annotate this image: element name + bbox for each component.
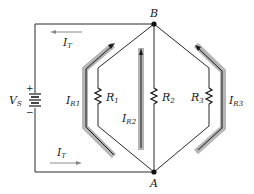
source-label: VS (9, 95, 22, 108)
ir3-label: IR3 (229, 95, 243, 108)
wire-r3-branch (154, 24, 209, 88)
parallel-circuit-diagram: B A + − VS IT IT R1 R2 R3 IR1 IR2 IR3 (0, 0, 254, 194)
r3-label-sub: 3 (199, 97, 203, 105)
source-label-main: V (9, 94, 17, 107)
node-a-dot (151, 169, 156, 174)
ir2-label: IR2 (122, 113, 136, 126)
r1-label: R1 (106, 92, 119, 105)
node-a-label: A (150, 178, 158, 189)
wire-r3-branch-low (154, 104, 209, 172)
ir1-label: IR1 (66, 95, 80, 108)
it-bottom-arrowhead-icon (76, 161, 82, 165)
node-b-dot (151, 21, 156, 26)
source-plus-sign: + (26, 84, 34, 93)
r3-resistor-icon (206, 88, 212, 104)
r1-label-sub: 1 (114, 97, 118, 105)
r1-resistor-icon (95, 88, 101, 104)
it-bottom-label-sub: T (61, 152, 66, 160)
source-label-sub: S (17, 100, 22, 108)
node-b-label: B (150, 8, 158, 19)
battery-icon (29, 94, 41, 106)
ir3-label-sub: R3 (233, 100, 243, 108)
r3-label: R3 (191, 92, 204, 105)
it-top-label: IT (63, 37, 72, 50)
ir1-label-sub: R1 (70, 100, 80, 108)
r2-label: R2 (162, 92, 175, 105)
it-top-label-sub: T (67, 42, 72, 50)
circuit-drawing (0, 0, 254, 194)
ir2-label-sub: R2 (126, 118, 136, 126)
it-top-arrowhead-icon (50, 30, 56, 34)
r2-resistor-icon (151, 88, 157, 104)
r2-label-sub: 2 (170, 97, 174, 105)
it-bottom-label: IT (57, 147, 66, 160)
wire-r1-branch (98, 24, 154, 88)
source-minus-sign: − (26, 108, 34, 117)
